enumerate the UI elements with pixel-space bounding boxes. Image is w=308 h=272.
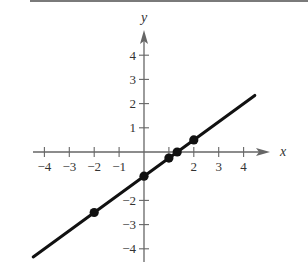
data-point (139, 172, 148, 181)
y-tick-label: 4 (130, 48, 137, 63)
data-point (90, 208, 99, 217)
y-tick-label: −2 (122, 193, 136, 208)
data-point (173, 147, 182, 156)
y-tick-label: −4 (122, 241, 136, 256)
line-graph: −4−3−2−1234−4−3−21234 x y (0, 0, 308, 272)
y-tick-label: 1 (130, 120, 137, 135)
data-point (189, 135, 198, 144)
y-tick-label: 2 (130, 96, 137, 111)
x-tick-label: −2 (87, 159, 101, 174)
x-tick-label: 3 (215, 159, 222, 174)
y-axis-label: y (139, 10, 148, 25)
y-tick-label: −3 (122, 217, 136, 232)
x-tick-label: −4 (37, 159, 51, 174)
x-axis-label: x (279, 144, 287, 159)
x-tick-label: −1 (112, 159, 126, 174)
y-tick-label: 3 (130, 72, 137, 87)
x-tick-label: −3 (62, 159, 76, 174)
x-tick-label: 2 (191, 159, 198, 174)
x-tick-label: 4 (240, 159, 247, 174)
axes (33, 30, 270, 262)
data-point (164, 153, 173, 162)
